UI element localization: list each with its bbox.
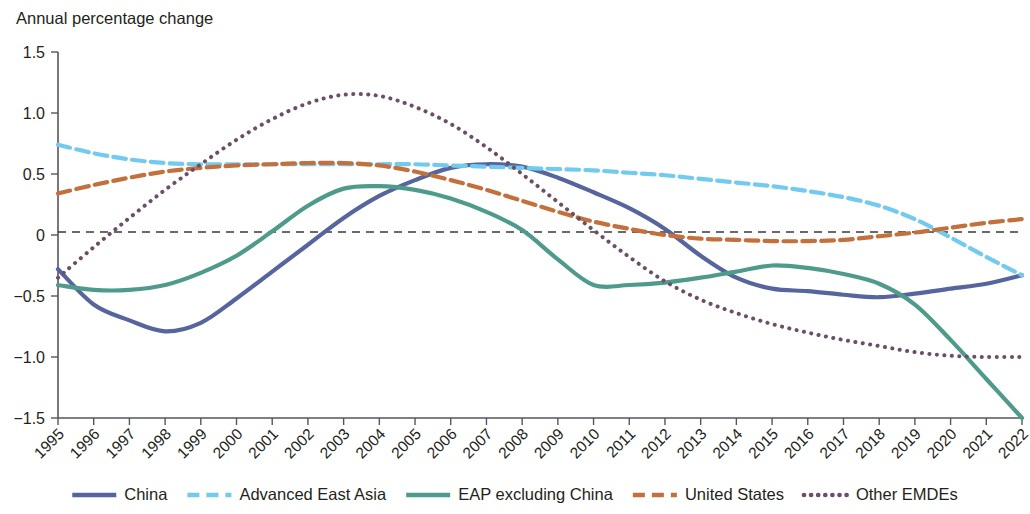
y-tick-label: 0 (36, 227, 45, 244)
y-tick-label: −1.5 (13, 410, 45, 427)
x-tick-label: 2020 (923, 425, 960, 462)
x-tick-label: 2011 (603, 425, 639, 461)
x-tick-label: 2005 (388, 425, 424, 461)
series-line-other-emdes (58, 94, 1022, 357)
y-tick-label: 1.5 (23, 44, 45, 61)
y-tick-label: 1.0 (23, 105, 45, 122)
x-tick-label: 1999 (174, 425, 210, 461)
series-line-eap-excluding-china (58, 186, 1022, 418)
x-tick-label: 2015 (745, 425, 781, 461)
y-axis-tick-group: 1.51.00.50−0.5−1.0−1.5 (13, 44, 58, 427)
y-tick-label: −1.0 (13, 349, 45, 366)
x-tick-label: 2000 (209, 425, 246, 462)
x-tick-label: 2007 (459, 425, 495, 461)
x-tick-label: 2022 (995, 425, 1030, 461)
legend-label-advanced-east-asia: Advanced East Asia (239, 485, 387, 503)
chart-title: Annual percentage change (16, 9, 213, 27)
y-tick-label: −0.5 (13, 288, 45, 305)
x-tick-label: 2018 (852, 425, 888, 461)
x-tick-label: 2021 (959, 425, 995, 461)
x-tick-label: 2017 (816, 425, 852, 461)
x-tick-label: 2009 (531, 425, 567, 461)
series-line-united-states (58, 163, 1022, 241)
chart-legend: ChinaAdvanced East AsiaEAP excluding Chi… (72, 485, 957, 503)
x-tick-label: 2016 (780, 425, 816, 461)
x-tick-label: 2006 (423, 425, 459, 461)
x-tick-label: 2002 (281, 425, 317, 461)
legend-label-other-emdes: Other EMDEs (856, 485, 958, 503)
series-line-advanced-east-asia (58, 145, 1022, 276)
x-tick-label: 2010 (566, 425, 603, 462)
legend-label-china: China (124, 485, 168, 503)
x-tick-label: 1995 (31, 425, 67, 461)
x-axis-tick-group: 1995199619971998199920002001200220032004… (31, 418, 1030, 462)
x-tick-label: 1998 (138, 425, 174, 461)
legend-label-eap-excluding-china: EAP excluding China (458, 485, 614, 503)
x-tick-label: 2013 (673, 425, 709, 461)
x-tick-label: 2004 (352, 425, 389, 462)
x-tick-label: 2003 (316, 425, 352, 461)
x-tick-label: 2019 (888, 425, 924, 461)
x-tick-label: 2012 (638, 425, 674, 461)
legend-label-united-states: United States (685, 485, 784, 503)
x-tick-label: 2001 (245, 425, 281, 461)
series-line-china (58, 164, 1022, 331)
series-group (58, 94, 1022, 418)
line-chart: Annual percentage change 1.51.00.50−0.5−… (0, 0, 1030, 514)
x-tick-label: 2008 (495, 425, 531, 461)
x-tick-label: 1996 (66, 425, 102, 461)
x-tick-label: 2014 (709, 425, 746, 462)
y-tick-label: 0.5 (23, 166, 45, 183)
x-tick-label: 1997 (102, 425, 138, 461)
